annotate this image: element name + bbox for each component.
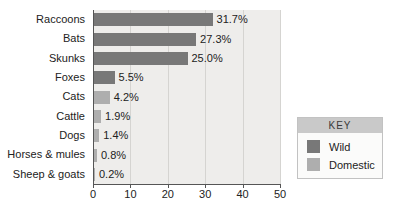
bar-skunks <box>94 52 188 65</box>
tick-label-0: 0 <box>81 188 105 200</box>
legend-item-wild: Wild <box>307 140 374 153</box>
category-label-cattle: Cattle <box>0 107 85 126</box>
legend-title: KEY <box>298 118 382 133</box>
value-label-foxes: 5.5% <box>119 71 144 84</box>
bar-chart-screenshot: RaccoonsBatsSkunksFoxesCatsCattleDogsHor… <box>0 0 393 213</box>
category-label-foxes: Foxes <box>0 68 85 87</box>
legend-swatch-wild <box>307 140 320 153</box>
category-label-skunks: Skunks <box>0 49 85 68</box>
value-label-dogs: 1.4% <box>103 129 128 142</box>
value-label-raccoons: 31.7% <box>217 13 248 26</box>
tick-label-20: 20 <box>156 188 180 200</box>
category-label-cats: Cats <box>0 87 85 106</box>
value-label-skunks: 25.0% <box>192 52 223 65</box>
bar-foxes <box>94 71 115 84</box>
value-label-cattle: 1.9% <box>105 110 130 123</box>
value-label-sheep-goats: 0.2% <box>99 168 124 181</box>
category-label-bats: Bats <box>0 29 85 48</box>
bar-cats <box>94 91 110 104</box>
category-label-horses-mules: Horses & mules <box>0 145 85 164</box>
bar-cattle <box>94 110 101 123</box>
category-label-sheep-goats: Sheep & goats <box>0 165 85 184</box>
tick-label-40: 40 <box>231 188 255 200</box>
category-label-raccoons: Raccoons <box>0 10 85 29</box>
category-label-dogs: Dogs <box>0 126 85 145</box>
legend-label-wild: Wild <box>329 141 350 153</box>
legend-body: WildDomestic <box>298 133 382 178</box>
plot-area: 31.7%27.3%25.0%5.5%4.2%1.9%1.4%0.8%0.2% <box>93 10 281 185</box>
bar-horses-mules <box>94 149 97 162</box>
tick-label-50: 50 <box>268 188 292 200</box>
bar-dogs <box>94 129 99 142</box>
tick-label-30: 30 <box>193 188 217 200</box>
value-label-bats: 27.3% <box>200 33 231 46</box>
legend: KEY WildDomestic <box>297 117 383 179</box>
value-label-cats: 4.2% <box>114 91 139 104</box>
tick-label-10: 10 <box>118 188 142 200</box>
category-axis-labels: RaccoonsBatsSkunksFoxesCatsCattleDogsHor… <box>0 10 89 184</box>
bar-sheep-goats <box>94 168 95 181</box>
bar-raccoons <box>94 13 213 26</box>
value-axis: 01020304050 <box>93 185 283 205</box>
bar-bats <box>94 33 196 46</box>
gridline-50 <box>280 10 281 184</box>
legend-swatch-domestic <box>307 158 320 171</box>
gridline-40 <box>243 10 244 184</box>
legend-label-domestic: Domestic <box>329 159 375 171</box>
legend-item-domestic: Domestic <box>307 158 374 171</box>
value-label-horses-mules: 0.8% <box>101 149 126 162</box>
